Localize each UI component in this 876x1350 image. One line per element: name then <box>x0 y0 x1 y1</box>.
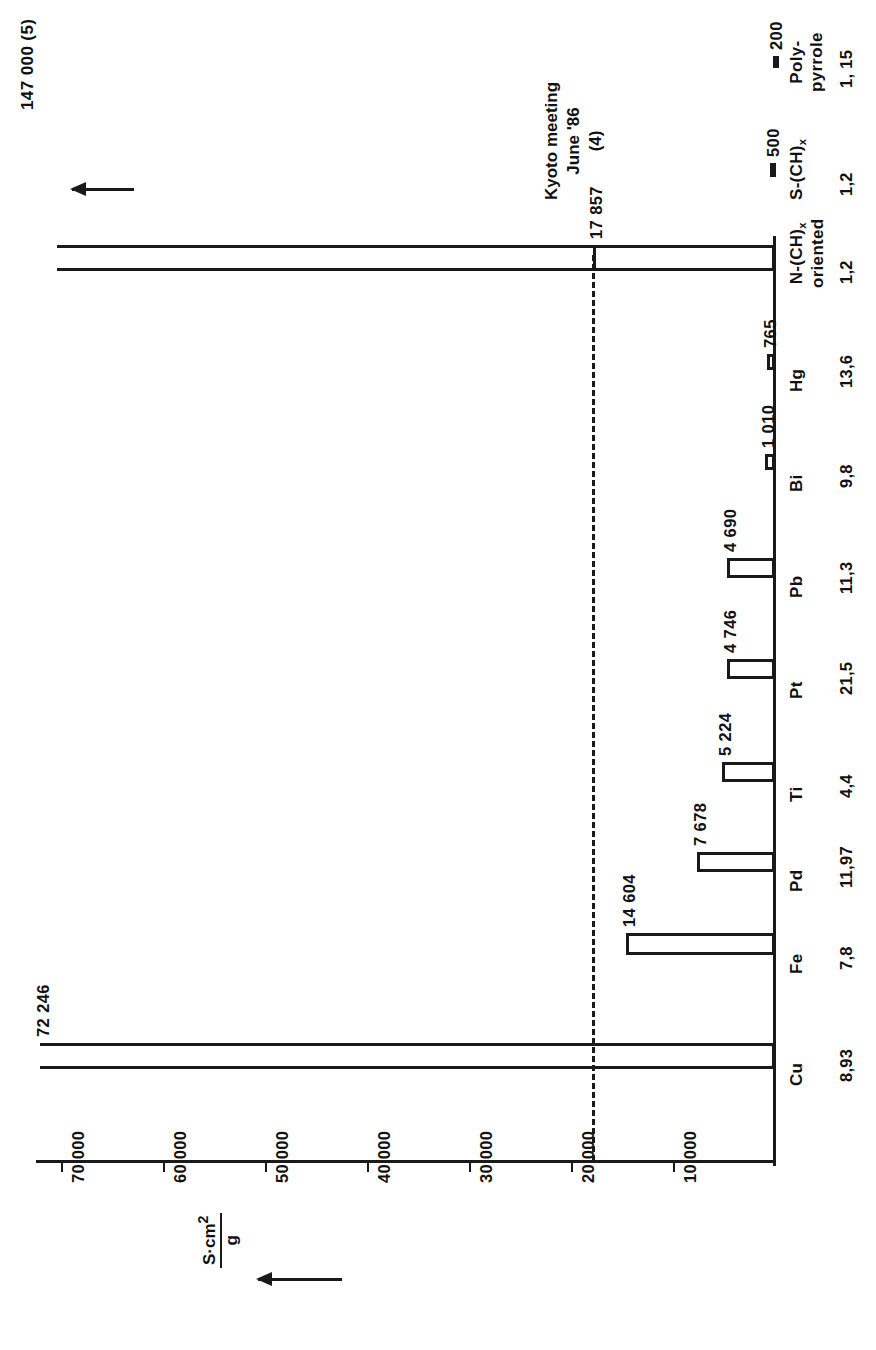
axis-tick-label: 40 000 <box>375 1131 394 1183</box>
unit-arrow-icon <box>258 1278 342 1281</box>
spec-weight-value: 21,5 <box>837 662 856 695</box>
spec-weight-value: 8,93 <box>837 1049 856 1082</box>
bar-value-label: 1 010 <box>759 405 778 448</box>
category-label: Pd <box>787 870 807 892</box>
axis-tick-label: 10 000 <box>681 1131 700 1183</box>
category-label: Pb <box>787 576 807 598</box>
spec-weight-value: 11,3 <box>837 562 856 594</box>
bar-value-label: 5 224 <box>716 713 735 756</box>
bar <box>40 1043 775 1069</box>
bar <box>697 852 775 872</box>
kyoto-line2: June '86 <box>564 107 583 174</box>
category-label: Pt <box>787 681 807 699</box>
axis-tick <box>61 1163 63 1172</box>
bar-value-label: 765 <box>761 319 780 348</box>
category-label: S-(CH)x <box>787 139 808 200</box>
bar <box>727 659 775 679</box>
category-label: Bi <box>787 474 807 492</box>
offscale-annotation: 147 000 (5) <box>18 19 38 110</box>
bar-value-label: 500 <box>764 128 783 157</box>
kyoto-annotation: Kyoto meeting June '86 (4) <box>541 82 606 200</box>
bar <box>626 933 775 955</box>
kyoto-line3: (4) <box>585 131 604 152</box>
bar-value-label: 72 246 <box>34 984 53 1037</box>
axis-tick-label: 30 000 <box>477 1131 496 1183</box>
category-label: Hg <box>787 369 807 392</box>
spec-weight-value: 7,8 <box>837 946 856 970</box>
spec-weight-value: 9,8 <box>837 464 856 488</box>
spec-weight-value: 1,2 <box>837 172 856 196</box>
bar <box>773 56 779 68</box>
bar-value-label: 14 604 <box>620 874 639 927</box>
kyoto-reference-line <box>592 255 595 1161</box>
value-axis <box>36 1160 776 1163</box>
category-label: N-(CH)xoriented <box>787 219 828 288</box>
bar <box>593 245 775 271</box>
bar <box>767 354 775 370</box>
axis-tick <box>571 1163 573 1172</box>
kyoto-line1: Kyoto meeting <box>542 82 561 200</box>
bar-value-label: 200 <box>767 21 786 50</box>
axis-tick <box>469 1163 471 1172</box>
axis-tick <box>163 1163 165 1172</box>
axis-tick <box>673 1163 675 1172</box>
axis-unit-caption: S·cm2 g <box>196 1213 240 1268</box>
bar <box>765 454 775 470</box>
unit-denominator: g <box>222 1213 241 1268</box>
axis-tick <box>367 1163 369 1172</box>
unit-numerator: S·cm2 <box>196 1213 222 1268</box>
category-label: Ti <box>787 787 807 802</box>
chart-canvas: 70 00060 00050 00040 00030 00020 00010 0… <box>0 0 876 1350</box>
bar <box>727 558 775 578</box>
spec-weight-value: 1, 15 <box>837 50 856 88</box>
category-label: Cu <box>787 1063 807 1086</box>
bar-value-label: 7 678 <box>691 803 710 846</box>
bar-value-label: 4 690 <box>721 509 740 552</box>
bar-value-label: 4 746 <box>721 610 740 653</box>
offscale-bar-continuation <box>57 245 593 271</box>
unit-exponent: 2 <box>195 1216 211 1224</box>
spec-weight-value: 11,97 <box>837 846 856 888</box>
offscale-arrow-icon <box>72 188 134 191</box>
axis-tick-label: 60 000 <box>171 1131 190 1183</box>
bar <box>770 163 776 177</box>
bar <box>722 762 775 782</box>
spec-weight-value: 4,4 <box>837 774 856 798</box>
axis-tick-label: 50 000 <box>273 1131 292 1183</box>
spec-weight-value: 1,2 <box>837 260 856 284</box>
axis-tick-label: 20 000 <box>579 1131 598 1183</box>
category-label: Poly-pyrrole <box>787 32 827 92</box>
category-label: Fe <box>787 954 807 974</box>
spec-weight-value: 13,6 <box>837 355 856 388</box>
category-axis <box>773 236 776 1166</box>
axis-tick-label: 70 000 <box>69 1131 88 1183</box>
axis-tick <box>265 1163 267 1172</box>
